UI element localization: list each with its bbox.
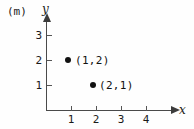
x-tick-label: 1 xyxy=(65,113,77,126)
data-point xyxy=(65,57,71,63)
x-tick-label: 4 xyxy=(140,113,152,126)
x-tick-label: 3 xyxy=(115,113,127,126)
data-point-label: (2,1) xyxy=(99,79,134,92)
y-tick-mark xyxy=(47,85,52,86)
y-tick-mark xyxy=(47,60,52,61)
x-axis-label: x xyxy=(179,103,186,117)
y-tick-mark xyxy=(47,35,52,36)
x-tick-mark xyxy=(121,106,122,111)
unit-label: (m) xyxy=(7,5,27,18)
x-tick-mark xyxy=(71,106,72,111)
data-point-label: (1,2) xyxy=(75,54,110,67)
x-axis-line xyxy=(46,110,172,111)
data-point xyxy=(90,82,96,88)
x-tick-label: 2 xyxy=(90,113,102,126)
y-tick-label: 2 xyxy=(30,54,42,67)
y-tick-label: 1 xyxy=(30,79,42,92)
coordinate-plane-figure: (m) y x 3 2 1 1 2 3 4 (1,2) (2,1) xyxy=(0,0,194,129)
x-tick-mark xyxy=(146,106,147,111)
y-axis-label: y xyxy=(42,2,49,16)
y-tick-label: 3 xyxy=(30,29,42,42)
x-tick-mark xyxy=(96,106,97,111)
